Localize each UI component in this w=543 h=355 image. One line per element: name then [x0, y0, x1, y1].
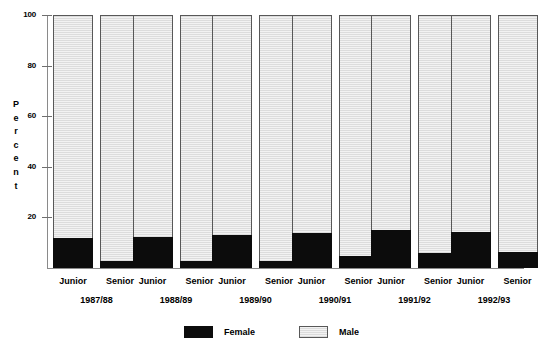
stacked-bar[interactable]: [212, 15, 252, 268]
y-axis-tick-group: 100: [0, 15, 52, 16]
legend-label: Male: [339, 327, 359, 337]
stacked-bar[interactable]: [498, 15, 538, 268]
x-axis-rank-label: Senior: [490, 276, 543, 287]
y-axis-title-letter: t: [8, 180, 24, 194]
y-axis-tick-label: 60: [12, 112, 36, 120]
bar-segment-female: [451, 232, 491, 268]
bar-segment-female: [292, 233, 332, 268]
y-axis-tick-group: 80: [0, 66, 52, 67]
y-axis-title-letter: r: [8, 125, 24, 139]
chart-legend: FemaleMale: [0, 326, 543, 338]
y-axis-tick-group: 40: [0, 167, 52, 168]
plot-area: [47, 15, 524, 268]
stacked-bar[interactable]: [451, 15, 491, 268]
bar-group: [133, 15, 220, 268]
stacked-bar[interactable]: [371, 15, 411, 268]
bar-segment-female: [212, 235, 252, 268]
stacked-bar[interactable]: [133, 15, 173, 268]
legend-label: Female: [224, 327, 255, 337]
y-axis-tick-group: 20: [0, 217, 52, 218]
legend-entry[interactable]: Male: [299, 326, 359, 338]
y-axis-tick-label: 80: [12, 62, 36, 70]
y-axis-title-letter: P: [8, 98, 24, 112]
y-axis-tick-label: 20: [12, 213, 36, 221]
bar-group: [53, 15, 140, 268]
bar-group: [451, 15, 538, 268]
bar-segment-female: [498, 252, 538, 268]
legend-swatch-male: [299, 326, 328, 338]
stacked-bar[interactable]: [53, 15, 93, 268]
y-axis-title-letter: c: [8, 139, 24, 153]
bar-group: [371, 15, 458, 268]
bar-segment-female: [53, 238, 93, 268]
bar-segment-female: [133, 237, 173, 268]
bar-group: [212, 15, 299, 268]
y-axis-tick-label: 100: [12, 11, 36, 19]
legend-swatch-female: [184, 326, 213, 338]
y-axis-tick-label: 40: [12, 163, 36, 171]
stacked-bar[interactable]: [292, 15, 332, 268]
y-axis-tick-group: 60: [0, 116, 52, 117]
legend-entry[interactable]: Female: [184, 326, 255, 338]
x-axis-line: [47, 268, 524, 269]
stacked-bar-chart: Percent 20406080100 JuniorSenior1987/88J…: [0, 0, 543, 355]
bar-segment-female: [371, 230, 411, 268]
bar-group: [292, 15, 379, 268]
x-axis-year-label: 1992/93: [439, 295, 543, 306]
